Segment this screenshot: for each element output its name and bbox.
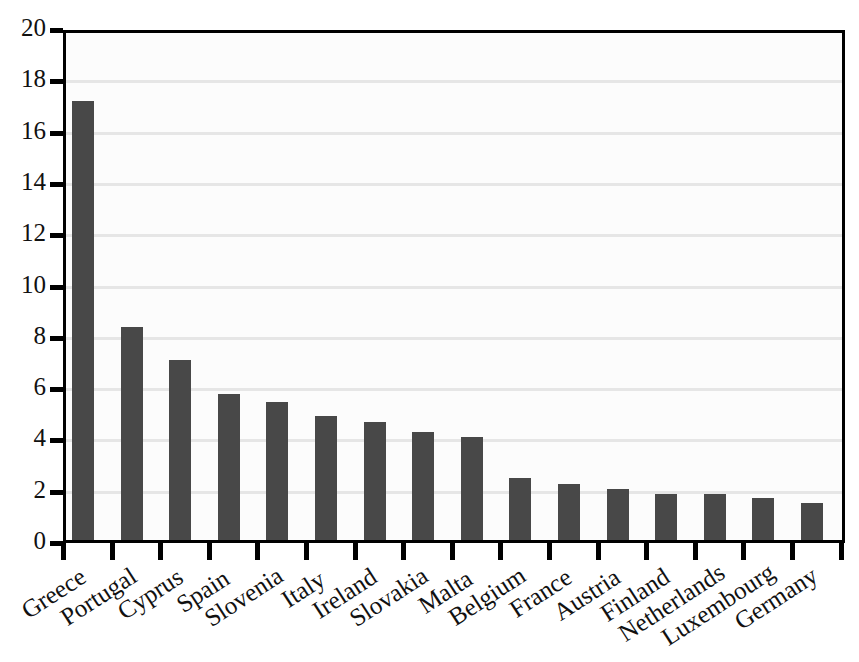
bar-belgium bbox=[509, 478, 531, 540]
y-tick-mark bbox=[50, 336, 63, 341]
y-tick-label: 6 bbox=[34, 373, 47, 401]
x-tick-mark-6 bbox=[353, 543, 358, 560]
x-tick-mark-16 bbox=[839, 543, 844, 560]
y-tick-label: 20 bbox=[21, 14, 46, 42]
bar-ireland bbox=[364, 422, 386, 540]
x-tick-mark-15 bbox=[790, 543, 795, 560]
y-tick-label: 16 bbox=[21, 117, 46, 145]
x-tick-mark-8 bbox=[450, 543, 455, 560]
y-tick-label: 8 bbox=[34, 322, 47, 350]
y-tick-label: 18 bbox=[21, 65, 46, 93]
bar-malta bbox=[461, 437, 483, 540]
x-tick-mark-12 bbox=[644, 543, 649, 560]
x-tick-mark-11 bbox=[596, 543, 601, 560]
bar-luxembourg bbox=[752, 498, 774, 540]
y-tick-mark bbox=[50, 182, 63, 187]
x-tick-mark-13 bbox=[693, 543, 698, 560]
bar-france bbox=[558, 484, 580, 540]
x-tick-mark-5 bbox=[304, 543, 309, 560]
y-tick-label: 14 bbox=[21, 168, 46, 196]
bar-netherlands bbox=[704, 494, 726, 540]
bar-finland bbox=[655, 494, 677, 540]
x-tick-mark-0 bbox=[61, 543, 66, 560]
y-tick-mark bbox=[50, 131, 63, 136]
x-tick-mark-1 bbox=[110, 543, 115, 560]
y-tick-label: 2 bbox=[34, 476, 47, 504]
x-tick-mark-4 bbox=[255, 543, 260, 560]
bar-greece bbox=[72, 101, 94, 540]
x-tick-mark-10 bbox=[547, 543, 552, 560]
x-tick-mark-9 bbox=[498, 543, 503, 560]
bar-italy bbox=[315, 416, 337, 540]
bars-container bbox=[66, 33, 842, 540]
y-tick-mark bbox=[50, 285, 63, 290]
bar-spain bbox=[218, 394, 240, 540]
y-tick-mark bbox=[50, 79, 63, 84]
bar-portugal bbox=[121, 327, 143, 540]
bar-slovenia bbox=[266, 402, 288, 541]
y-tick-label: 10 bbox=[21, 271, 46, 299]
bar-cyprus bbox=[169, 360, 191, 540]
bar-chart: 20181614121086420 GreecePortugalCyprusSp… bbox=[0, 0, 859, 662]
x-axis-labels: GreecePortugalCyprusSpainSloveniaItalyIr… bbox=[0, 560, 859, 662]
x-tick-mark-3 bbox=[207, 543, 212, 560]
y-tick-label: 4 bbox=[34, 424, 47, 452]
y-tick-mark bbox=[50, 387, 63, 392]
plot-area bbox=[63, 30, 845, 543]
y-tick-label: 12 bbox=[21, 219, 46, 247]
x-tick-mark-7 bbox=[401, 543, 406, 560]
y-tick-mark bbox=[50, 490, 63, 495]
y-tick-mark bbox=[50, 28, 63, 33]
x-tick-mark-14 bbox=[741, 543, 746, 560]
bar-germany bbox=[801, 503, 823, 540]
y-tick-mark bbox=[50, 438, 63, 443]
y-tick-mark bbox=[50, 233, 63, 238]
x-tick-mark-2 bbox=[158, 543, 163, 560]
bar-austria bbox=[607, 489, 629, 540]
bar-slovakia bbox=[412, 432, 434, 540]
